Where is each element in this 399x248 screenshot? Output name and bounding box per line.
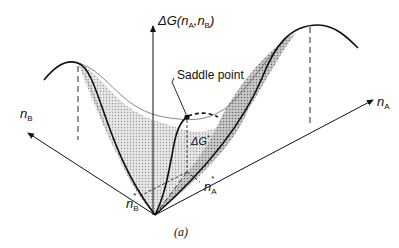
barrier-label: ΔG* <box>191 134 210 147</box>
label-suffix: ) <box>210 13 214 28</box>
figure-caption: (a) <box>174 226 188 238</box>
saddle-point-label: Saddle point <box>177 69 244 81</box>
na-star-sup: * <box>211 175 214 183</box>
label-var2: n <box>197 13 204 28</box>
label-prefix: ΔG( <box>158 13 181 28</box>
nb-star-sup: * <box>133 192 136 200</box>
na-sub: A <box>384 102 389 111</box>
energy-surface-shading-dark <box>155 33 296 215</box>
nb-star-label: n*B <box>126 197 139 213</box>
saddle-point-marker <box>184 114 189 119</box>
nb-sub: B <box>27 114 32 123</box>
curve-na-profile <box>155 25 358 215</box>
axis-nb-label: nB <box>20 107 33 123</box>
na-star-label: n*A <box>204 180 217 196</box>
vertical-axis-label: ΔG(nA,nB) <box>158 14 214 30</box>
saddle-point-leader <box>172 78 186 114</box>
na-star-sub: A <box>211 187 216 196</box>
nb-star-sub: B <box>133 204 138 213</box>
barrier-sup: * <box>207 133 210 142</box>
free-energy-surface-diagram <box>0 0 399 248</box>
barrier-var: ΔG <box>191 135 207 147</box>
axis-na-label: nA <box>377 95 390 111</box>
